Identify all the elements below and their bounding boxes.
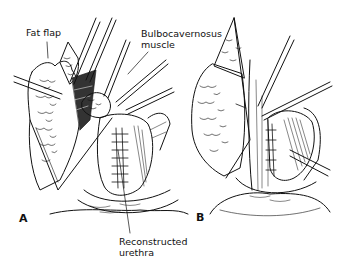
- panel-label-a: A: [19, 212, 28, 225]
- label-reconstructed-line2: urethra: [119, 247, 154, 258]
- panel-a-drawing: [14, 18, 188, 233]
- label-bulbocavernosus-line1: Bulbocavernosus: [141, 28, 222, 39]
- panel-label-b: B: [196, 211, 204, 224]
- surgical-illustration: Fat flap Bulbocavernosus muscle Reconstr…: [0, 0, 347, 270]
- urethra-leader-line: [118, 150, 130, 233]
- bulbocavernosus-leader-line: [128, 52, 148, 74]
- label-bulbocavernosus-line2: muscle: [141, 39, 175, 50]
- panel-b-drawing: [192, 18, 332, 216]
- label-fat-flap: Fat flap: [26, 27, 61, 38]
- fat-flap-leader-line: [47, 42, 48, 58]
- label-reconstructed-line1: Reconstructed: [119, 236, 188, 247]
